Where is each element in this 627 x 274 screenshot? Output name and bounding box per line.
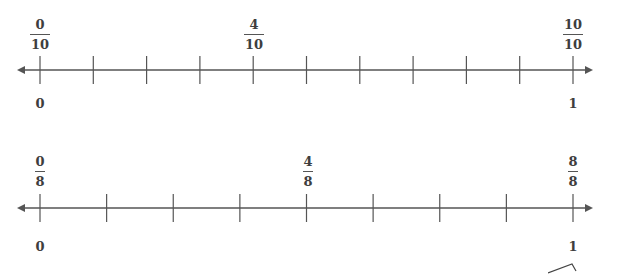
whole-number-label: 0 [25,240,55,253]
fraction-bar [35,171,45,172]
fraction-denominator: 8 [288,175,328,188]
fraction-denominator: 8 [553,175,593,188]
arrow-right-icon [585,204,593,212]
partial-shape-corner [548,262,588,274]
fraction-bar [303,171,313,172]
whole-number-label: 1 [558,240,588,253]
fraction-numerator: 0 [20,155,60,168]
fraction-label: 08 [20,155,60,188]
fraction-bar [568,171,578,172]
arrow-left-icon [17,204,25,212]
fraction-numerator: 8 [553,155,593,168]
fraction-numerator: 4 [288,155,328,168]
fraction-denominator: 8 [20,175,60,188]
fraction-label: 88 [553,155,593,188]
fraction-label: 48 [288,155,328,188]
